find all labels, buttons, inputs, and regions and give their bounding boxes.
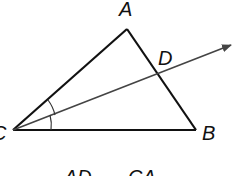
side-AB xyxy=(127,29,196,130)
label-B: B xyxy=(202,122,215,144)
angle-arc-upper xyxy=(48,100,55,115)
angle-bisector-ray xyxy=(13,45,231,130)
label-C: C xyxy=(0,122,7,144)
angle-arc-lower xyxy=(50,115,51,130)
equation-right-numerator: CA xyxy=(128,166,156,176)
side-CA xyxy=(13,29,127,130)
triangle-diagram: A D B C AD CA xyxy=(0,0,234,176)
label-A: A xyxy=(118,0,132,20)
equation-left-numerator: AD xyxy=(63,166,92,176)
label-D: D xyxy=(158,47,172,69)
